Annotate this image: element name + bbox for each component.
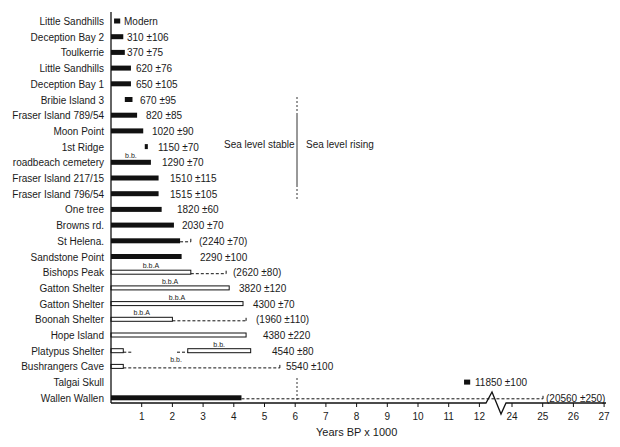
site-label: Sandstone Point [31, 252, 105, 263]
x-tick-label: 24 [506, 411, 518, 422]
chart-row: Fraser Island 217/151510 ±115 [12, 173, 217, 184]
bar [111, 160, 151, 165]
site-label: Toulkerrie [61, 47, 105, 58]
x-axis-title: Years BP x 1000 [316, 426, 397, 438]
bar [125, 97, 133, 102]
chart-row: Bushrangers Caveb.b.5540 ±100 [21, 356, 333, 372]
bar [111, 128, 143, 133]
site-label: Wallen Wallen [41, 393, 104, 404]
site-label: Bribie Island 3 [41, 95, 105, 106]
x-tick-label: 8 [354, 411, 360, 422]
site-label: Browns rd. [56, 220, 104, 231]
date-label: 1150 ±70 [158, 142, 199, 153]
x-tick-label: 12 [474, 411, 486, 422]
site-label: Deception Bay 2 [31, 32, 105, 43]
x-tick-label: 25 [537, 411, 549, 422]
date-label: 1515 ±105 [170, 189, 218, 200]
chart-rows: Little SandhillsModernDeception Bay 2310… [12, 16, 605, 404]
date-label: 4540 ±80 [272, 346, 314, 357]
date-label: 3820 ±120 [239, 283, 287, 294]
site-label: Gatton Shelter [40, 283, 105, 294]
date-label: 1820 ±60 [177, 204, 219, 215]
chart-row: Hope Island4380 ±220 [51, 330, 311, 341]
note-label: b.b.A [134, 309, 151, 316]
chart-row: Gatton Shelterb.b.A4300 ±70 [40, 294, 296, 310]
date-label: 820 ±85 [146, 110, 183, 121]
chart-row: roadbeach cemeteryb.b.1290 ±70 [13, 152, 204, 168]
bar [111, 254, 182, 259]
site-label: Fraser Island 796/54 [12, 189, 104, 200]
site-label: Talgai Skull [53, 377, 104, 388]
x-tick-label: 2 [170, 411, 176, 422]
site-label: Deception Bay 1 [31, 79, 105, 90]
site-label: Platypus Shelter [31, 346, 104, 357]
chart-row: Sandstone Point2290 ±100 [31, 252, 248, 263]
bar [111, 66, 131, 71]
bar [111, 364, 123, 368]
bar [111, 223, 174, 228]
chart-row: Bribie Island 3670 ±95 [41, 95, 177, 106]
bar [111, 207, 162, 212]
site-label: 1st Ridge [62, 142, 105, 153]
date-label: 2290 ±100 [200, 252, 248, 263]
bar [111, 238, 180, 243]
site-label: Little Sandhills [40, 63, 104, 74]
note-label: b.b. [213, 341, 225, 348]
bar [111, 113, 137, 118]
x-tick-label: 4 [231, 411, 237, 422]
date-label: (1960 ±110) [256, 314, 309, 325]
x-tick-label: 10 [412, 411, 424, 422]
site-label: Hope Island [51, 330, 104, 341]
bar [111, 81, 131, 86]
date-label: 310 ±106 [127, 32, 169, 43]
bar [111, 34, 123, 39]
date-label: 1020 ±90 [152, 126, 194, 137]
note-label: b.b.A [143, 262, 160, 269]
chart-row: Deception Bay 1650 ±105 [31, 79, 178, 90]
site-label: roadbeach cemetery [13, 157, 104, 168]
sea-level-rising-label: Sea level rising [306, 139, 374, 150]
chart-row: Toulkerrie370 ±75 [61, 47, 164, 58]
axes: 12345678910111224252627 [111, 12, 610, 422]
date-label: (2240 ±70) [199, 236, 247, 247]
bar [114, 19, 120, 24]
site-label: One tree [65, 204, 104, 215]
bar [111, 317, 172, 321]
note-label: b.b. [170, 356, 182, 363]
date-label: (2620 ±80) [233, 267, 281, 278]
chart-row: 1st Ridge1150 ±70 [62, 142, 200, 153]
bar [111, 395, 241, 400]
chart-row: Gatton Shelterb.b.A3820 ±120 [40, 278, 287, 294]
site-label: Fraser Island 217/15 [12, 173, 104, 184]
chart-row: Platypus Shelterb.b.4540 ±80 [31, 341, 314, 357]
bar [111, 333, 246, 337]
bar [111, 349, 123, 353]
bar [464, 380, 470, 385]
chart-row: Deception Bay 2310 ±106 [31, 32, 169, 43]
site-label: Fraser Island 789/54 [12, 110, 104, 121]
chart-row: Moon Point1020 ±90 [53, 126, 194, 137]
x-tick-label: 7 [323, 411, 329, 422]
chart-row: Browns rd.2030 ±70 [56, 220, 224, 231]
site-label: St Helena. [57, 236, 104, 247]
date-label: 620 ±76 [136, 63, 173, 74]
date-label: 650 ±105 [136, 79, 178, 90]
x-tick-label: 1 [139, 411, 145, 422]
date-label: 670 ±95 [140, 95, 177, 106]
site-label: Bushrangers Cave [21, 361, 104, 372]
chart-row: Little Sandhills620 ±76 [40, 63, 173, 74]
site-label: Little Sandhills [40, 16, 104, 27]
x-tick-label: 11 [444, 411, 455, 422]
site-label: Moon Point [53, 126, 104, 137]
chart-row: Boonah Shelterb.b.A(1960 ±110) [35, 309, 309, 325]
chart-row: One tree1820 ±60 [65, 204, 219, 215]
x-tick-label: 27 [599, 411, 611, 422]
chart-row: Bishops Peakb.b.A(2620 ±80) [43, 262, 281, 278]
chart-row: Fraser Island 796/541515 ±105 [12, 189, 217, 200]
x-tick-label: 9 [385, 411, 391, 422]
chart-row: Talgai Skull11850 ±100 [53, 377, 527, 388]
sea-level-stable-label: Sea level stable [224, 139, 295, 150]
date-label: 4300 ±70 [253, 299, 295, 310]
bar [111, 191, 159, 196]
date-label: 11850 ±100 [475, 377, 527, 388]
